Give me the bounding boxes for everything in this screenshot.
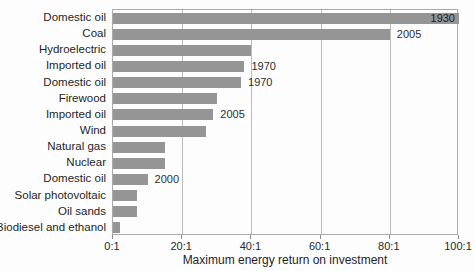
category-label-firewood: Firewood — [0, 90, 106, 106]
category-axis-labels: Domestic oilCoalHydroelectricImported oi… — [0, 9, 106, 235]
x-tick-label-100:1: 100:1 — [444, 240, 472, 252]
bar-imported-oil-1970 — [113, 61, 244, 72]
bar-firewood — [113, 93, 217, 104]
bar-nuclear — [113, 158, 165, 169]
year-annotation: 2005 — [397, 29, 421, 40]
x-tick-mark — [181, 235, 182, 239]
bar-row — [113, 204, 457, 220]
category-label-hydroelectric: Hydroelectric — [0, 41, 106, 57]
bar-biodiesel-and-ethanol — [113, 222, 120, 233]
bar-row: 1930 — [113, 10, 457, 26]
bar-imported-oil-2005 — [113, 109, 213, 120]
category-label-imported-oil: Imported oil — [0, 57, 106, 73]
year-annotation: 1970 — [248, 77, 272, 88]
category-label-oil-sands: Oil sands — [0, 203, 106, 219]
bar-row — [113, 91, 457, 107]
x-tick-label-60:1: 60:1 — [309, 240, 330, 252]
x-tick-mark — [389, 235, 390, 239]
bar-row: 2005 — [113, 26, 457, 42]
bar-row: 1970 — [113, 58, 457, 74]
year-annotation: 2005 — [220, 109, 244, 120]
x-tick-mark — [250, 235, 251, 239]
x-tick-label-20:1: 20:1 — [170, 240, 191, 252]
x-tick-label-40:1: 40:1 — [240, 240, 261, 252]
year-annotation: 1970 — [251, 61, 275, 72]
category-label-domestic-oil: Domestic oil — [0, 170, 106, 186]
category-label-domestic-oil: Domestic oil — [0, 74, 106, 90]
category-label-nuclear: Nuclear — [0, 154, 106, 170]
category-label-domestic-oil: Domestic oil — [0, 9, 106, 25]
category-label-solar-photovoltaic: Solar photovoltaic — [0, 187, 106, 203]
bar-domestic-oil-1930: 1930 — [113, 13, 459, 24]
bar-coal-2005 — [113, 29, 390, 40]
bar-oil-sands — [113, 206, 137, 217]
category-label-biodiesel-and-ethanol: Biodiesel and ethanol — [0, 219, 106, 235]
year-annotation: 2000 — [155, 174, 179, 185]
bar-row — [113, 188, 457, 204]
category-label-wind: Wind — [0, 122, 106, 138]
category-label-natural-gas: Natural gas — [0, 138, 106, 154]
bar-natural-gas — [113, 142, 165, 153]
category-label-coal: Coal — [0, 25, 106, 41]
year-annotation: 1930 — [431, 13, 455, 24]
bar-row — [113, 155, 457, 171]
bar-domestic-oil-2000 — [113, 174, 148, 185]
bar-row — [113, 139, 457, 155]
eroi-bar-chart-figure: Domestic oilCoalHydroelectricImported oi… — [0, 0, 474, 271]
bar-hydroelectric — [113, 45, 251, 56]
x-axis-title: Maximum energy return on investment — [112, 253, 458, 267]
bar-row: 2005 — [113, 107, 457, 123]
x-tick-label-0:1: 0:1 — [104, 240, 119, 252]
bar-row — [113, 42, 457, 58]
bar-row — [113, 220, 457, 236]
bar-row: 1970 — [113, 75, 457, 91]
bar-domestic-oil-1970 — [113, 77, 241, 88]
bar-row: 2000 — [113, 171, 457, 187]
category-label-imported-oil: Imported oil — [0, 106, 106, 122]
plot-area: 193020051970197020052000 — [112, 9, 458, 235]
x-tick-mark — [320, 235, 321, 239]
bar-row — [113, 123, 457, 139]
x-tick-mark — [112, 235, 113, 239]
x-axis: 0:120:140:160:180:1100:1 — [112, 235, 458, 255]
x-tick-label-80:1: 80:1 — [378, 240, 399, 252]
bar-solar-photovoltaic — [113, 190, 137, 201]
bar-wind — [113, 126, 206, 137]
x-tick-mark — [458, 235, 459, 239]
